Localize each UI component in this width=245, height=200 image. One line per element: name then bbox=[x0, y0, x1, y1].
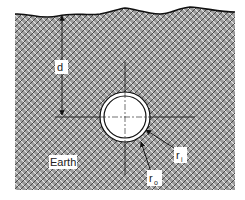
buried-pipe-diagram: d r i r o Earth bbox=[0, 0, 245, 200]
depth-label: d bbox=[57, 61, 63, 73]
inner-radius-label: r bbox=[176, 149, 180, 161]
outer-radius-subscript: o bbox=[154, 179, 158, 186]
outer-radius-label: r bbox=[149, 172, 153, 184]
earth-label: Earth bbox=[50, 156, 76, 168]
